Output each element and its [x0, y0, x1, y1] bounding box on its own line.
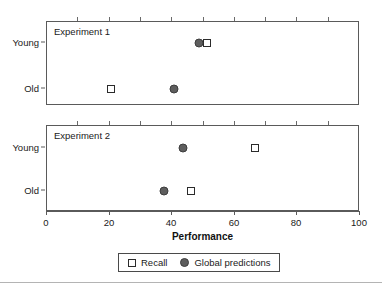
x-axis-tick-mark [171, 211, 172, 215]
x-axis-tick-mark [109, 211, 110, 215]
plot-area-experiment-1 [47, 22, 358, 104]
x-axis-minor-tick [328, 121, 329, 125]
data-point-square [251, 144, 259, 152]
legend-entry-recall: Recall [128, 257, 167, 268]
x-axis-tick-mark [359, 211, 360, 215]
x-axis-minor-tick [296, 121, 297, 125]
data-point-square [203, 39, 211, 47]
x-axis-tick-mark [234, 211, 235, 215]
y-axis-tick-label: Young [12, 37, 39, 48]
x-axis-line [46, 211, 359, 212]
y-axis-tick-mark [41, 42, 45, 43]
y-axis-tick-label: Old [24, 185, 39, 196]
x-axis-minor-tick [109, 121, 110, 125]
open-square-marker-icon [128, 259, 136, 267]
x-axis-title: Performance [46, 231, 359, 242]
legend-label-recall: Recall [141, 257, 167, 268]
panel-experiment-1: Experiment 1 [46, 21, 359, 105]
panel-experiment-2: Experiment 2 [46, 125, 359, 211]
y-axis-tick-label: Young [12, 142, 39, 153]
x-axis-tick-label: 20 [104, 217, 115, 228]
x-axis-tick-label: 80 [291, 217, 302, 228]
legend-label-global-predictions: Global predictions [194, 257, 270, 268]
x-axis-minor-tick [328, 17, 329, 21]
data-point-square [187, 187, 195, 195]
x-axis-minor-tick [109, 17, 110, 21]
x-axis-tick-label: 40 [166, 217, 177, 228]
chart-figure: Experiment 1 Experiment 2 YoungOldYoungO… [0, 0, 382, 290]
x-axis-tick-label: 0 [43, 217, 48, 228]
x-axis-minor-tick [140, 17, 141, 21]
x-axis-tick-mark [46, 211, 47, 215]
data-point-circle [179, 144, 188, 153]
x-axis-minor-tick [140, 121, 141, 125]
x-axis-minor-tick [77, 121, 78, 125]
legend-entry-global-predictions: Global predictions [180, 257, 270, 268]
y-axis-tick-label: Old [24, 83, 39, 94]
y-axis-tick-mark [41, 190, 45, 191]
x-axis-tick-label: 100 [351, 217, 367, 228]
data-point-circle [194, 39, 203, 48]
y-axis-tick-mark [41, 88, 45, 89]
x-axis-minor-tick [296, 17, 297, 21]
x-axis-minor-tick [265, 121, 266, 125]
x-axis-minor-tick [171, 121, 172, 125]
data-point-circle [169, 85, 178, 94]
x-axis-tick-mark [296, 211, 297, 215]
x-axis-minor-tick [171, 17, 172, 21]
x-axis-minor-tick [234, 17, 235, 21]
y-axis-tick-mark [41, 147, 45, 148]
filled-circle-marker-icon [180, 258, 189, 267]
x-axis-minor-tick [203, 121, 204, 125]
data-point-square [107, 85, 115, 93]
chart-legend: Recall Global predictions [118, 253, 280, 272]
x-axis-minor-tick [77, 17, 78, 21]
plot-area-experiment-2 [47, 126, 358, 210]
data-point-circle [160, 187, 169, 196]
x-axis-minor-tick [265, 17, 266, 21]
x-axis-minor-tick [234, 121, 235, 125]
footer-divider [0, 282, 382, 283]
x-axis-minor-tick [203, 17, 204, 21]
x-axis-tick-label: 60 [229, 217, 240, 228]
